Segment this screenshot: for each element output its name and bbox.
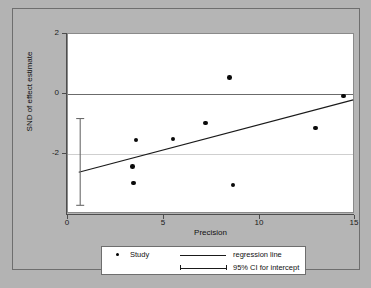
x-tick-label-10: 10	[249, 219, 269, 227]
x-tick-label-0: 0	[57, 219, 77, 227]
legend-ci-line-icon	[180, 268, 226, 269]
data-point	[341, 94, 346, 99]
data-point	[130, 164, 135, 169]
y-axis-label: SND of effect estimate	[25, 32, 34, 152]
data-point	[131, 181, 136, 186]
legend-label-ci: 95% CI for intercept	[233, 261, 299, 274]
legend-box: Study regression line 95% CI for interce…	[101, 246, 306, 275]
y-tick-label-2: 2	[37, 29, 59, 37]
legend-regression-line-icon	[180, 255, 226, 256]
y-tick-label-0: 0	[37, 89, 59, 97]
y-tick-label-neg2: -2	[37, 149, 59, 157]
ci-error-bar	[76, 119, 84, 206]
legend-row-study: Study regression line	[102, 248, 305, 261]
x-tick-label-15: 15	[344, 219, 364, 227]
x-axis-line	[66, 214, 354, 215]
legend-row-ci: 95% CI for intercept	[102, 261, 305, 274]
legend-ci-cap-left-icon	[180, 265, 181, 270]
data-point	[227, 75, 232, 80]
page-background: SND of effect estimate 2 0 -2 0 5 10 15 …	[0, 0, 371, 288]
legend-label-regression: regression line	[233, 248, 282, 261]
x-axis-label: Precision	[67, 228, 354, 237]
plot-panel	[67, 33, 354, 213]
figure-frame: SND of effect estimate 2 0 -2 0 5 10 15 …	[12, 8, 360, 270]
regression-line	[79, 100, 353, 172]
legend-label-study: Study	[130, 248, 149, 261]
series-overlay	[68, 34, 355, 214]
legend-study-marker-icon	[116, 253, 119, 256]
legend-ci-cap-right-icon	[226, 265, 227, 270]
x-tick-label-5: 5	[153, 219, 173, 227]
data-point	[203, 121, 208, 126]
